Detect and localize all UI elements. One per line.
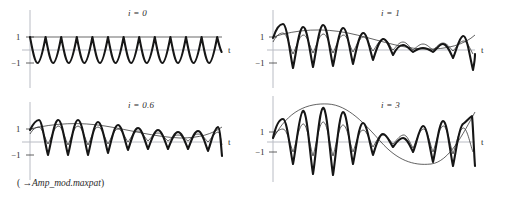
ytick-label-pos: 1 (260, 127, 264, 137)
x-axis-label: t (228, 137, 231, 147)
panel-title-2: i = 0.6 (128, 100, 154, 110)
figure-caption: ( →Amp_mod.maxpat) (17, 178, 104, 188)
plot-panel-i-0.6: i = 0.6 1 −1 t (0, 94, 252, 186)
ytick-label-pos: 1 (16, 124, 20, 134)
plot-panel-i-1: i = 1 1 −1 t (253, 2, 505, 94)
ytick-label-neg: −1 (255, 147, 264, 157)
ytick-label-neg: −1 (255, 58, 264, 68)
plot-svg-2: 1 −1 t (0, 94, 252, 186)
ytick-label-neg: −1 (11, 150, 20, 160)
x-axis-label: t (481, 45, 484, 55)
caption-filename: Amp_mod.maxpat (32, 178, 101, 188)
ytick-label-neg: −1 (11, 58, 20, 68)
arrow-icon: → (23, 178, 33, 188)
plot-svg-1: 1 −1 t (253, 2, 505, 94)
plot-svg-0: 1 −1 t (0, 2, 252, 94)
inner-waveform-3 (273, 122, 473, 156)
panel-title-1: i = 1 (381, 8, 400, 18)
panel-grid: i = 0 1 −1 t i = 1 (0, 0, 505, 175)
x-axis-label: t (481, 137, 484, 147)
x-axis-label: t (228, 45, 231, 55)
panel-title-3: i = 3 (381, 100, 400, 110)
ytick-label-pos: 1 (16, 32, 20, 42)
plot-svg-3: 1 −1 t (253, 94, 505, 186)
panel-title-0: i = 0 (128, 8, 147, 18)
envelope-curve-1 (273, 30, 475, 49)
plot-panel-i-0: i = 0 1 −1 t (0, 2, 252, 94)
plot-panel-i-3: i = 3 1 −1 t (253, 94, 505, 186)
caption-close: ) (101, 178, 104, 188)
carrier-waveform-3 (273, 108, 475, 175)
ytick-label-pos: 1 (260, 32, 264, 42)
amplitude-modulation-figure: i = 0 1 −1 t i = 1 (0, 0, 505, 201)
